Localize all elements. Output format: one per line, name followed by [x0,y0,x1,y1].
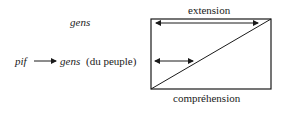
diagram-graphics [0,0,289,113]
diagonal-line [151,19,271,89]
